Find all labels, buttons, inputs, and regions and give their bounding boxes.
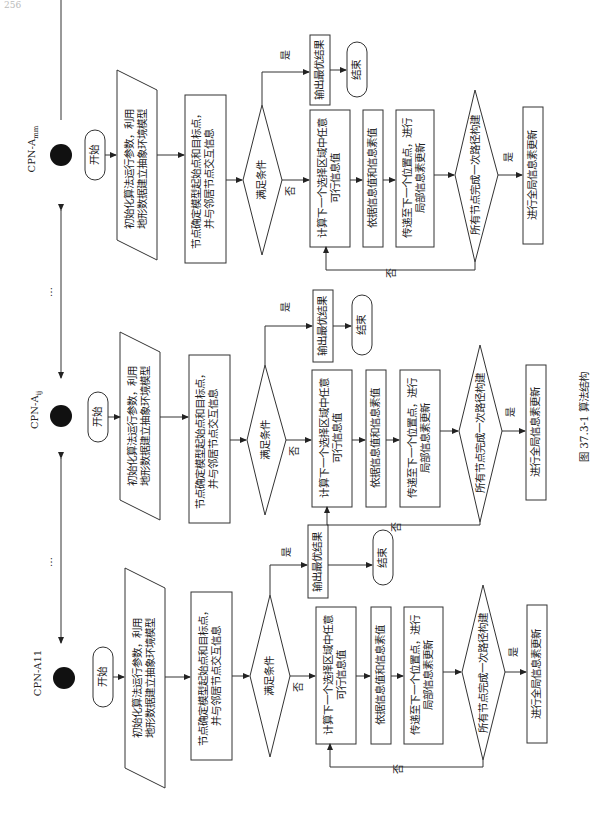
start-terminal-bottom: 开始 — [96, 652, 110, 702]
output-result-bottom: 输出最优结果 — [311, 527, 325, 597]
init-step-bottom: 初始化算法运行参数，利用地形数据建立抽象环境模型 — [131, 603, 159, 753]
condition-no-label-middle: 否 — [289, 444, 303, 458]
global-update-middle: 进行全局信息素更新 — [529, 377, 543, 487]
node-step-middle: 节点确定模型起始点和目标点，并与邻居节点交互信息 — [194, 364, 222, 514]
output-result-top: 输出最优结果 — [313, 35, 327, 105]
agent-ellipsis-top: … — [43, 282, 57, 302]
loop-no-label-middle: 否 — [391, 520, 405, 534]
by-info-step-middle: 依据信息值和信息素值 — [369, 373, 383, 503]
move-step-bottom: 传递至下一个位置点，进行局部信息素更新 — [409, 605, 437, 745]
condition-yes-label-top: 是 — [280, 48, 294, 62]
global-update-bottom: 进行全局信息素更新 — [530, 619, 544, 729]
node-step-top: 节点确定模型起始点和目标点，并与邻居节点交互信息 — [190, 104, 218, 254]
condition-yes-label-bottom: 是 — [281, 545, 295, 559]
calc-step-bottom: 计算下一个选择区域中任意可行信息值 — [322, 605, 350, 745]
condition-no-label-bottom: 否 — [293, 680, 307, 694]
bottom-band — [53, 525, 547, 788]
end-terminal-top: 结束 — [350, 45, 364, 95]
agent-label-top: CPN-Amm — [26, 114, 40, 184]
condition-yes-label-middle: 是 — [280, 300, 294, 314]
all-nodes-decision-top: 所有节点完成一次路径构建 — [469, 113, 483, 238]
all-nodes-yes-label-middle: 是 — [505, 405, 519, 419]
agent-label-bottom: CPN-A11 — [32, 638, 46, 708]
condition-decision-bottom: 满足条件 — [263, 646, 277, 706]
loop-no-label-top: 否 — [386, 266, 400, 280]
node-step-bottom: 节点确定模型起始点和目标点，并与邻居节点交互信息 — [197, 601, 225, 751]
all-nodes-yes-label-top: 是 — [503, 150, 517, 164]
move-step-middle: 传递至下一个位置点，进行局部信息素更新 — [406, 368, 434, 508]
init-step-middle: 初始化算法运行参数，利用地形数据建立抽象环境模型 — [126, 351, 154, 501]
loop-no-label-bottom: 否 — [393, 762, 407, 776]
all-nodes-decision-bottom: 所有节点完成一次路径构建 — [477, 611, 491, 736]
by-info-step-bottom: 依据信息值和信息素值 — [374, 610, 388, 740]
start-terminal-top: 开始 — [88, 130, 102, 180]
calc-step-top: 计算下一个选择区域中任意可行信息值 — [316, 108, 344, 248]
by-info-step-top: 依据信息值和信息素值 — [366, 113, 380, 243]
move-step-top: 传递至下一个位置点，进行局部信息素更新 — [401, 108, 429, 248]
condition-decision-middle: 满足条件 — [259, 410, 273, 470]
condition-decision-top: 满足条件 — [255, 150, 269, 210]
start-terminal-middle: 开始 — [91, 392, 105, 442]
all-nodes-decision-middle: 所有节点完成一次路径构建 — [474, 371, 488, 496]
figure-caption: 图 37.3-1 算法结构 — [578, 347, 592, 487]
agent-label-middle: CPN-Aij — [29, 375, 43, 445]
calc-step-middle: 计算下一个选择区域中任意可行信息值 — [318, 368, 346, 508]
middle-band — [50, 290, 546, 525]
agent-ellipsis-bottom: … — [43, 552, 57, 572]
end-terminal-middle: 结束 — [355, 300, 369, 350]
global-update-top: 进行全局信息素更新 — [526, 120, 540, 230]
init-step-top: 初始化算法运行参数，利用地形数据建立抽象环境模型 — [123, 94, 151, 244]
end-terminal-bottom: 结束 — [376, 533, 390, 583]
all-nodes-yes-label-bottom: 是 — [508, 645, 522, 659]
condition-no-label-top: 否 — [285, 184, 299, 198]
output-result-middle: 输出最优结果 — [316, 291, 330, 361]
